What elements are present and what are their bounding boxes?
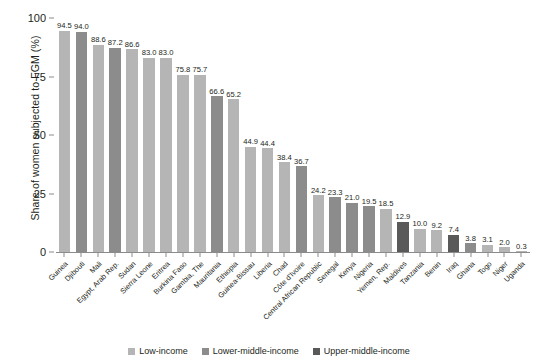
bar-slot: 66.6 (208, 18, 225, 252)
bar-value-label: 38.4 (277, 154, 292, 162)
legend-item[interactable]: Upper-middle-income (313, 346, 410, 356)
bar-slot: 44.4 (259, 18, 276, 252)
bar-value-label: 3.1 (482, 236, 493, 244)
bar[interactable]: 19.5 (363, 206, 375, 252)
bar[interactable]: 65.2 (228, 99, 240, 252)
bar-value-label: 94.0 (74, 23, 89, 31)
y-tick-label: 75 (34, 71, 46, 83)
x-tick-mark (301, 253, 302, 257)
bar-slot: 38.4 (276, 18, 293, 252)
bar-value-label: 10.0 (412, 220, 427, 228)
bar[interactable]: 94.5 (59, 31, 71, 252)
bar[interactable]: 9.2 (431, 230, 443, 252)
bar-value-label: 44.9 (243, 138, 258, 146)
x-tick-mark (250, 253, 251, 257)
legend-item[interactable]: Low-income (128, 346, 188, 356)
legend-swatch-icon (202, 348, 209, 355)
bar-value-label: 88.6 (91, 36, 106, 44)
fgm-bar-chart: Share of women subjected to FGM (%) 0255… (0, 0, 538, 360)
x-tick-mark (132, 253, 133, 257)
bar[interactable]: 3.8 (465, 243, 477, 252)
bar-slot: 10.0 (411, 18, 428, 252)
x-tick-mark (453, 253, 454, 257)
bar-value-label: 21.0 (345, 194, 360, 202)
y-tick-mark (49, 18, 54, 19)
x-tick-mark (81, 253, 82, 257)
bar[interactable]: 87.2 (109, 48, 121, 252)
x-tick-mark (216, 253, 217, 257)
bar-value-label: 94.5 (57, 22, 72, 30)
bar-slot: 23.3 (327, 18, 344, 252)
chart-legend: Low-incomeLower-middle-incomeUpper-middl… (0, 346, 538, 356)
bar[interactable]: 75.7 (194, 75, 206, 252)
x-tick-mark (165, 253, 166, 257)
bar-value-label: 2.0 (499, 239, 510, 247)
bar[interactable]: 21.0 (346, 203, 358, 252)
y-tick-label: 0 (40, 246, 46, 258)
bar[interactable]: 10.0 (414, 229, 426, 252)
bar-value-label: 36.7 (294, 158, 309, 166)
bar[interactable]: 83.0 (143, 58, 155, 252)
bar-slot: 86.6 (124, 18, 141, 252)
bar[interactable]: 44.4 (262, 148, 274, 252)
bar-slot: 19.5 (361, 18, 378, 252)
x-tick-mark (352, 253, 353, 257)
bar-slot: 7.4 (445, 18, 462, 252)
bar[interactable]: 7.4 (448, 235, 460, 252)
bar[interactable]: 44.9 (245, 147, 257, 252)
legend-item[interactable]: Lower-middle-income (202, 346, 299, 356)
bar-slot: 65.2 (225, 18, 242, 252)
x-tick-mark (419, 253, 420, 257)
bar-value-label: 83.0 (142, 49, 157, 57)
bar[interactable]: 38.4 (279, 162, 291, 252)
x-tick-mark (98, 253, 99, 257)
x-tick-mark (470, 253, 471, 257)
bar[interactable]: 86.6 (126, 49, 138, 252)
bar-value-label: 23.3 (328, 189, 343, 197)
legend-label: Lower-middle-income (213, 346, 299, 356)
bar[interactable]: 3.1 (482, 245, 494, 252)
bar[interactable]: 18.5 (380, 209, 392, 252)
y-tick-mark (49, 135, 54, 136)
bar-slot: 0.3 (513, 18, 530, 252)
bar[interactable]: 0.3 (516, 251, 528, 252)
bar-value-label: 12.9 (396, 213, 411, 221)
bar[interactable]: 88.6 (93, 45, 105, 252)
bar-value-label: 87.2 (108, 39, 123, 47)
x-tick-mark (487, 253, 488, 257)
y-tick-label: 50 (34, 129, 46, 141)
y-tick-label: 100 (28, 12, 46, 24)
bar-slot: 83.0 (158, 18, 175, 252)
bar[interactable]: 36.7 (296, 166, 308, 252)
y-tick-mark (49, 252, 54, 253)
bar[interactable]: 12.9 (397, 222, 409, 252)
bar-slot: 21.0 (344, 18, 361, 252)
x-tick-mark (64, 253, 65, 257)
x-tick-mark (233, 253, 234, 257)
y-axis-ticks: 0255075100 (0, 0, 56, 252)
legend-label: Upper-middle-income (324, 346, 410, 356)
bar[interactable]: 83.0 (160, 58, 172, 252)
bar-slot: 2.0 (496, 18, 513, 252)
x-label-slot: Benin (428, 258, 445, 338)
x-tick-mark (436, 253, 437, 257)
x-tick-mark (369, 253, 370, 257)
bar[interactable]: 24.2 (313, 195, 325, 252)
x-tick-mark (267, 253, 268, 257)
bar-value-label: 9.2 (431, 222, 442, 230)
bar-slot: 3.1 (479, 18, 496, 252)
y-tick-label: 25 (34, 188, 46, 200)
bar[interactable]: 23.3 (329, 197, 341, 252)
bar-slot: 24.2 (310, 18, 327, 252)
y-tick-mark (49, 193, 54, 194)
bar-value-label: 75.8 (176, 66, 191, 74)
bar[interactable]: 75.8 (177, 75, 189, 252)
bar-slot: 88.6 (90, 18, 107, 252)
bar-slot: 75.8 (174, 18, 191, 252)
bar[interactable]: 66.6 (211, 96, 223, 252)
x-axis-line (56, 252, 530, 253)
bar[interactable]: 94.0 (76, 32, 88, 252)
y-tick-mark (49, 76, 54, 77)
bar-value-label: 19.5 (362, 198, 377, 206)
bar[interactable]: 2.0 (499, 247, 511, 252)
